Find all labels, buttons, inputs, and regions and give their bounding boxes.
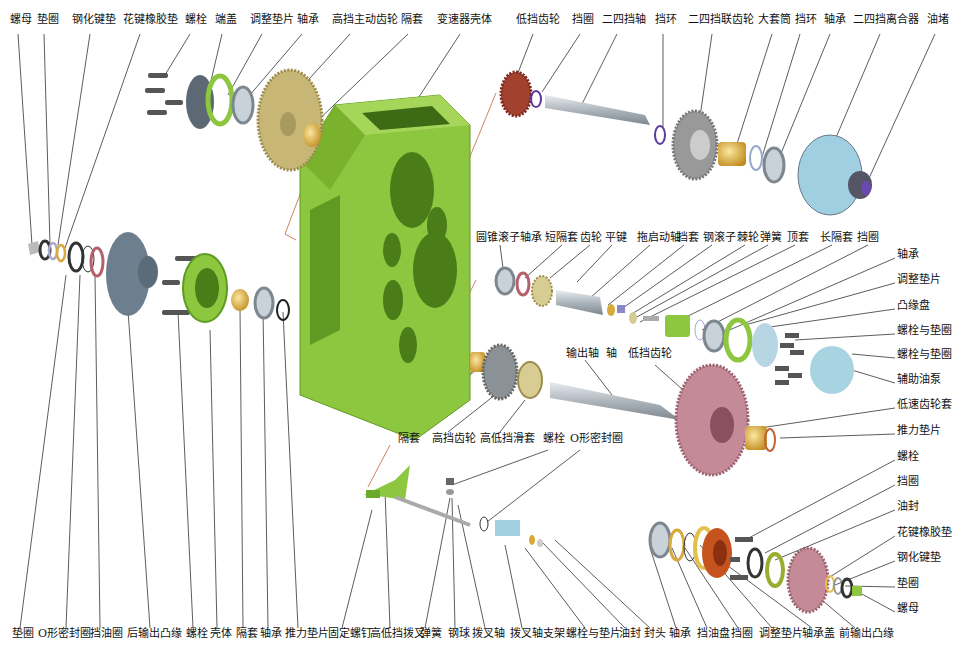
label-flange-plate: 凸缘盘 [897,300,930,312]
label-high-drive-gear: 高挡主动齿轮 [332,14,398,26]
label-tow-start-shaft: 拖启动轴 [637,232,681,244]
label-large-sleeve: 大套筒 [758,14,791,26]
label-short-spacer: 短隔套 [545,232,578,244]
label-top-sleeve: 顶套 [787,232,809,244]
label-fork-shaft: 拨叉轴 [472,628,505,640]
label-2-4-cluster-gear: 二四挡联齿轮 [688,14,754,26]
label-shim-r: 调整垫片 [897,274,941,286]
label-stop-ring-2: 挡环 [795,14,817,26]
label-end-cap: 端盖 [215,14,237,26]
label-fork-shaft-bracket: 拨叉轴支架 [510,628,565,640]
label-spring: 弹簧 [760,232,782,244]
label-oil-seal-r: 油封 [897,501,919,513]
label-retaining-ring-2: 挡圈 [857,232,879,244]
gearbox-housing [300,95,470,440]
rear-output-flange-parts [28,232,289,322]
label-low-gear-2: 低挡齿轮 [628,348,672,360]
label-stop-ring: 挡环 [655,14,677,26]
label-nut: 螺母 [10,14,32,26]
label-bolt-2: 螺栓 [543,433,565,445]
label-output-shaft: 输出轴 [566,348,599,360]
label-steel-roller: 钢滚子 [703,232,736,244]
label-spline-rubber-pad: 花键橡胶垫 [123,14,178,26]
label-bolt-washer-b: 螺栓与垫片 [566,628,621,640]
label-end-plug: 封头 [644,628,666,640]
label-gearbox-housing: 变速器壳体 [437,14,492,26]
label-spacer: 隔套 [401,14,423,26]
label-retaining-ring-b: 挡圈 [731,628,753,640]
label-spacer-b: 隔套 [236,628,258,640]
label-washer: 垫圈 [37,14,59,26]
label-thrust-washer-b: 推力垫片 [285,628,329,640]
label-housing-b: 壳体 [210,628,232,640]
label-bearing-cover: 轴承盖 [802,628,835,640]
label-washer-r: 垫圈 [897,578,919,590]
label-steel-ball: 钢球 [448,628,470,640]
label-long-spacer: 长隔套 [820,232,853,244]
label-oil-deflector-plate: 挡油盘 [697,628,730,640]
label-ratchet: 棘轮 [737,232,759,244]
label-bearing-b2: 轴承 [669,628,691,640]
label-oil-deflector-ring: 挡油圈 [90,628,123,640]
front-output-flange-parts [650,523,862,612]
label-2-4-shaft: 二四挡轴 [602,14,646,26]
label-shim: 调整垫片 [250,14,294,26]
label-hi-lo-shift-fork: 高低挡拨叉 [370,628,425,640]
output-shaft-parts [470,345,775,475]
label-stop-sleeve: 挡套 [677,232,699,244]
label-bearing-r: 轴承 [897,249,919,261]
shift-fork-parts [364,465,543,547]
label-bearing: 轴承 [297,14,319,26]
label-2-4-clutch: 二四挡离合器 [853,14,919,26]
diagram-graphics [0,0,966,645]
exploded-view-diagram: 螺母 垫圈 钢化键垫 花键橡胶垫 螺栓 端盖 调整垫片 轴承 高挡主动齿轮 隔套… [0,0,966,645]
label-shaft: 轴 [606,348,617,360]
label-set-screw: 固定螺钉 [328,628,372,640]
label-retaining-ring-r: 挡圈 [897,476,919,488]
label-bearing-2: 轴承 [824,14,846,26]
label-thrust-washer: 推力垫片 [897,425,941,437]
label-flat-key: 平键 [605,232,627,244]
pto-shaft-parts [496,268,854,394]
label-bolt: 螺栓 [185,14,207,26]
label-hardened-key-pad: 钢化键垫 [72,14,116,26]
label-bolt-washer-2: 螺栓与垫圈 [897,349,952,361]
label-tapered-roller-bearing: 圆锥滚子轴承 [476,232,542,244]
label-spline-rubber-pad-r: 花键橡胶垫 [897,527,952,539]
label-hardened-key-pad-r: 钢化键垫 [897,552,941,564]
label-bolt-b: 螺栓 [186,628,208,640]
label-high-gear: 高挡齿轮 [432,433,476,445]
label-gear: 齿轮 [580,232,602,244]
label-oil-seal-b: 油封 [619,628,641,640]
label-bolt-r: 螺栓 [897,451,919,463]
label-o-ring-b: O形密封圈 [38,628,91,640]
label-spring-b: 弹簧 [420,628,442,640]
label-bolt-washer-1: 螺栓与垫圈 [897,325,952,337]
label-low-gear: 低挡齿轮 [516,14,560,26]
label-oil-plug: 油堵 [927,14,949,26]
label-retaining-ring: 挡圈 [572,14,594,26]
label-washer-b: 垫圈 [12,628,34,640]
label-low-speed-gear-sleeve: 低速齿轮套 [897,399,952,411]
label-rear-output-flange: 后输出凸缘 [127,628,182,640]
label-aux-oil-pump: 辅助油泵 [897,374,941,386]
leader-lines [18,34,935,628]
label-spacer-2: 隔套 [398,433,420,445]
label-nut-r: 螺母 [897,603,919,615]
label-hi-lo-sliding-sleeve: 高低挡滑套 [480,433,535,445]
label-front-output-flange: 前输出凸缘 [839,628,894,640]
label-shim-b: 调整垫片 [759,628,803,640]
top-right-parts [501,72,872,215]
label-bearing-b: 轴承 [260,628,282,640]
label-o-ring: O形密封圈 [570,433,623,445]
